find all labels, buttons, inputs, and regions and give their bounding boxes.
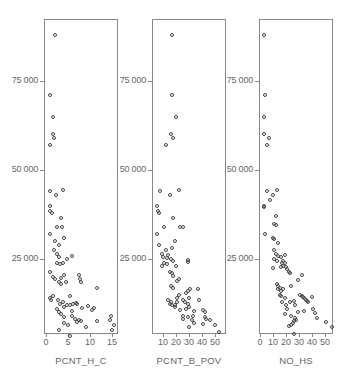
data-point-marker bbox=[306, 300, 310, 304]
data-point-marker bbox=[95, 319, 99, 323]
data-point-marker bbox=[213, 323, 217, 327]
data-point-marker bbox=[192, 309, 196, 313]
data-point-marker bbox=[173, 239, 177, 243]
y-tick bbox=[40, 259, 44, 260]
x-tick-label: 0 bbox=[36, 337, 56, 347]
data-point-marker bbox=[178, 308, 182, 312]
data-point-marker bbox=[51, 115, 55, 119]
data-point-marker bbox=[160, 264, 164, 268]
data-point-marker bbox=[186, 260, 190, 264]
data-point-marker bbox=[181, 225, 185, 229]
data-point-marker bbox=[57, 243, 61, 247]
data-point-marker bbox=[265, 143, 269, 147]
data-point-marker bbox=[177, 188, 181, 192]
y-tick-label: 25 000 bbox=[0, 253, 38, 263]
y-tick-label: 50 000 bbox=[213, 164, 253, 174]
data-point-marker bbox=[53, 239, 57, 243]
data-point-marker bbox=[55, 225, 59, 229]
x-axis-title-pcnt-b-pov: PCNT_B_POV bbox=[144, 355, 234, 366]
x-axis-title-pcnt-h-c: PCNT_H_C bbox=[36, 355, 126, 366]
data-point-marker bbox=[330, 325, 334, 329]
data-point-marker bbox=[279, 265, 283, 269]
y-tick bbox=[255, 259, 259, 260]
data-point-marker bbox=[68, 334, 72, 338]
data-point-marker bbox=[287, 324, 291, 328]
y-tick-label: 75 000 bbox=[213, 75, 253, 85]
y-tick bbox=[148, 81, 152, 82]
data-point-marker bbox=[274, 223, 278, 227]
y-tick-label: 50 000 bbox=[106, 164, 146, 174]
data-point-marker bbox=[302, 309, 306, 313]
y-tick-label: 25 000 bbox=[106, 253, 146, 263]
data-point-marker bbox=[157, 211, 161, 215]
x-tick-label: 15 bbox=[102, 337, 122, 347]
data-point-marker bbox=[157, 243, 161, 247]
data-point-marker bbox=[271, 193, 275, 197]
data-point-marker bbox=[53, 277, 57, 281]
x-tick-label: 10 bbox=[80, 337, 100, 347]
data-point-marker bbox=[292, 332, 296, 336]
data-point-marker bbox=[289, 284, 293, 288]
data-point-marker bbox=[271, 266, 275, 270]
data-point-marker bbox=[173, 305, 177, 309]
data-point-marker bbox=[62, 273, 66, 277]
data-point-marker bbox=[313, 311, 317, 315]
y-tick-label: 50 000 bbox=[0, 164, 38, 174]
data-point-marker bbox=[155, 204, 159, 208]
data-point-marker bbox=[64, 280, 68, 284]
data-point-marker bbox=[300, 273, 304, 277]
data-point-marker bbox=[164, 248, 168, 252]
data-point-marker bbox=[62, 315, 66, 319]
y-tick bbox=[255, 170, 259, 171]
data-point-marker bbox=[174, 115, 178, 119]
data-point-marker bbox=[62, 321, 66, 325]
data-point-marker bbox=[48, 143, 52, 147]
data-point-marker bbox=[181, 317, 185, 321]
data-point-marker bbox=[274, 214, 278, 218]
x-axis-title-no-hs: NO_HS bbox=[251, 355, 341, 366]
x-tick-label: 5 bbox=[58, 337, 78, 347]
scatter-panel-pcnt-h-c bbox=[44, 19, 118, 334]
data-point-marker bbox=[61, 300, 65, 304]
data-point-marker bbox=[164, 143, 168, 147]
data-point-marker bbox=[61, 188, 65, 192]
y-tick bbox=[40, 170, 44, 171]
data-point-marker bbox=[155, 232, 159, 236]
data-point-marker bbox=[203, 310, 207, 314]
x-tick-label: 50 bbox=[315, 337, 335, 347]
y-tick bbox=[40, 81, 44, 82]
y-tick bbox=[255, 81, 259, 82]
y-tick-label: 75 000 bbox=[0, 75, 38, 85]
y-tick-label: 25 000 bbox=[213, 253, 253, 263]
data-point-marker bbox=[80, 306, 84, 310]
x-tick-label: 50 bbox=[205, 337, 225, 347]
data-point-marker bbox=[48, 270, 52, 274]
data-point-marker bbox=[95, 286, 99, 290]
data-point-marker bbox=[54, 193, 58, 197]
data-point-marker bbox=[275, 188, 279, 192]
data-point-marker bbox=[66, 323, 70, 327]
data-point-marker bbox=[108, 318, 112, 322]
data-point-marker bbox=[208, 318, 212, 322]
data-point-marker bbox=[53, 33, 57, 37]
data-point-marker bbox=[217, 330, 221, 334]
data-point-marker bbox=[262, 33, 266, 37]
data-point-marker bbox=[171, 286, 175, 290]
data-point-marker bbox=[62, 236, 66, 240]
data-point-marker bbox=[262, 115, 266, 119]
data-point-marker bbox=[187, 325, 191, 329]
scatter-panel-no-hs bbox=[259, 19, 333, 334]
data-point-marker bbox=[170, 33, 174, 37]
y-tick bbox=[148, 170, 152, 171]
data-point-marker bbox=[52, 136, 56, 140]
data-point-marker bbox=[50, 211, 54, 215]
data-point-marker bbox=[283, 312, 287, 316]
y-tick-label: 75 000 bbox=[106, 75, 146, 85]
data-point-marker bbox=[275, 259, 279, 263]
data-point-marker bbox=[75, 302, 79, 306]
y-tick bbox=[148, 259, 152, 260]
data-point-marker bbox=[168, 193, 172, 197]
data-point-marker bbox=[265, 189, 269, 193]
data-point-marker bbox=[315, 316, 319, 320]
